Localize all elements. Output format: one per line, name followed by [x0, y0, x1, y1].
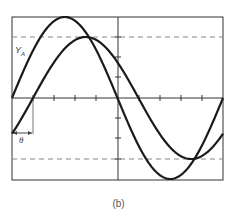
figure-caption: (b) — [0, 198, 237, 209]
curve-label-ya: YA — [15, 45, 25, 57]
waveform-diagram — [0, 0, 237, 217]
phase-angle-label: θ — [19, 135, 23, 145]
